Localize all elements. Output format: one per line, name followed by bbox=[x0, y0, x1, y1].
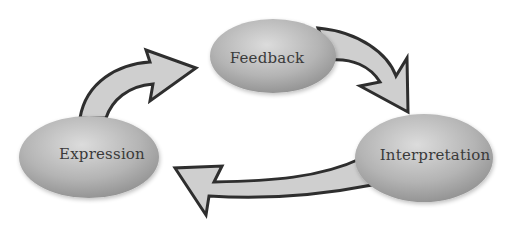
node-expression-label: Expression bbox=[59, 145, 145, 163]
arrow-interpretation-to-expression bbox=[175, 158, 372, 215]
cycle-diagram: Feedback Interpretation Expression bbox=[0, 0, 520, 235]
diagram-canvas bbox=[0, 0, 520, 235]
arrow-expression-to-feedback bbox=[80, 50, 196, 118]
arrow-feedback-to-interpretation bbox=[318, 28, 408, 112]
node-feedback-label: Feedback bbox=[230, 49, 305, 67]
node-interpretation-label: Interpretation bbox=[380, 146, 491, 164]
